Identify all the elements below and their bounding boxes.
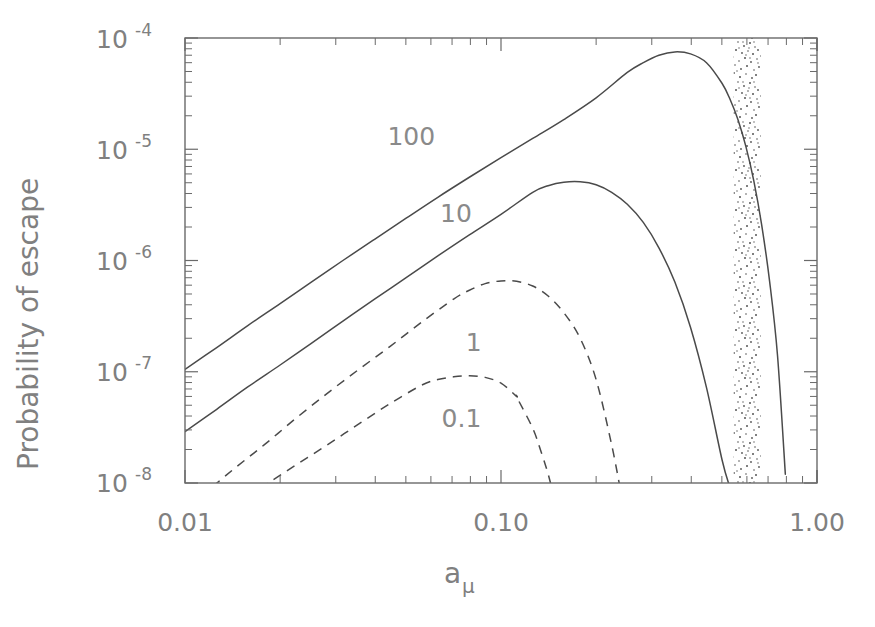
x-tick-label: 0.10	[473, 508, 529, 537]
x-axis-title-base: a	[444, 557, 461, 590]
y-tick-exponent: -8	[135, 464, 152, 484]
axis-ticks	[185, 38, 817, 483]
plot-frame	[185, 38, 817, 483]
escape-probability-chart: Probability of escape 10 -4 10 -5 10 -6 …	[0, 0, 875, 627]
x-axis-title: a μ	[444, 557, 475, 598]
figure-container: Probability of escape 10 -4 10 -5 10 -6 …	[0, 0, 875, 627]
x-axis-title-subscript: μ	[462, 574, 475, 598]
curve-label-1: 1	[466, 328, 482, 357]
y-tick-mantissa: 10	[96, 25, 128, 54]
stippled-resonance-band	[734, 38, 761, 483]
x-tick-label: 1.00	[789, 508, 845, 537]
x-tick-label: 0.01	[157, 508, 213, 537]
y-tick-labels: 10 -4 10 -5 10 -6 10 -7 10 -8	[96, 20, 152, 498]
y-tick-exponent: -7	[135, 353, 152, 373]
y-tick-mantissa: 10	[96, 136, 128, 165]
y-tick-label: 10 -7	[96, 353, 152, 387]
y-tick-mantissa: 10	[96, 358, 128, 387]
x-tick-labels: 0.01 0.10 1.00	[157, 508, 845, 537]
y-axis-title: Probability of escape	[12, 178, 45, 470]
y-tick-label: 10 -4	[96, 20, 152, 54]
curve-label-10: 10	[440, 199, 472, 228]
y-tick-mantissa: 10	[96, 469, 128, 498]
y-tick-exponent: -5	[135, 131, 152, 151]
curve-label-100: 100	[387, 122, 435, 151]
curve-label-0.1: 0.1	[442, 404, 482, 433]
y-tick-label: 10 -8	[96, 464, 152, 498]
curves-group	[185, 52, 785, 512]
y-tick-mantissa: 10	[96, 247, 128, 276]
y-tick-label: 10 -6	[96, 242, 152, 276]
curve-100	[185, 52, 785, 474]
y-tick-exponent: -6	[135, 242, 152, 262]
y-tick-exponent: -4	[135, 20, 152, 40]
y-tick-label: 10 -5	[96, 131, 152, 165]
curve-labels: 1001010.1	[387, 122, 481, 433]
curve-1	[201, 281, 622, 497]
curve-0.1	[232, 376, 555, 504]
curve-10	[185, 182, 738, 512]
